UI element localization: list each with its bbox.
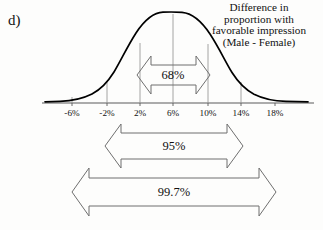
x-tick-label-18pct: 18% <box>267 108 284 118</box>
x-tick-label-2pct: 2% <box>134 108 146 118</box>
caption-line-4: (Male - Female) <box>196 37 322 49</box>
x-tick-label--6pct: -6% <box>64 108 79 118</box>
x-tick-label-10pct: 10% <box>200 108 217 118</box>
figure-caption: Difference in proportion with favorable … <box>196 2 322 48</box>
band-label-95: 95% <box>163 139 186 154</box>
x-tick-label--2pct: -2% <box>99 108 114 118</box>
figure-container: d) Difference in proportion with favorab… <box>0 0 323 230</box>
x-tick-label-6pct: 6% <box>167 108 179 118</box>
caption-line-1: Difference in <box>196 2 322 14</box>
part-label: d) <box>8 12 21 29</box>
x-tick-label-14pct: 14% <box>233 108 250 118</box>
band-label-68: 68% <box>162 68 185 83</box>
band-label-99-7: 99.7% <box>158 185 190 200</box>
